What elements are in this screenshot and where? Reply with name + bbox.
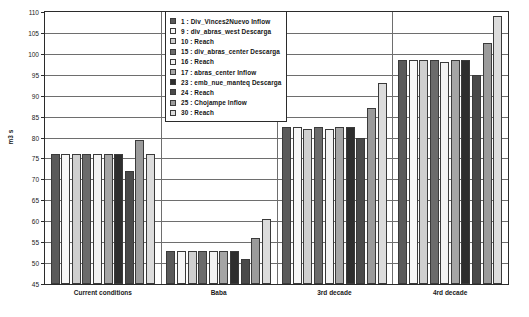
legend-label: 10 : Reach: [181, 38, 214, 45]
bar: [188, 251, 197, 284]
y-tick-label: 60: [32, 218, 39, 225]
bar: [356, 138, 365, 284]
bar: [409, 60, 418, 284]
legend-item[interactable]: 9 : div_abras_west Descarga: [170, 26, 281, 36]
bar: [367, 108, 376, 284]
bar-group: [392, 12, 508, 284]
bar: [241, 259, 250, 284]
bar: [293, 127, 302, 284]
bar: [314, 127, 323, 284]
legend-swatch-icon: [170, 89, 176, 95]
bar: [72, 154, 81, 284]
y-tick-label: 45: [32, 281, 39, 288]
legend-swatch-icon: [170, 79, 176, 85]
bar: [166, 251, 175, 284]
y-tick-label: 95: [32, 71, 39, 78]
legend-item[interactable]: 15 : div_abras_center Descarga: [170, 47, 281, 57]
legend-label: 9 : div_abras_west Descarga: [181, 28, 271, 35]
y-tick-label: 75: [32, 155, 39, 162]
y-tick: [41, 138, 45, 139]
bar: [125, 171, 134, 284]
bar: [51, 154, 60, 284]
y-tick: [41, 242, 45, 243]
x-axis-label: 3rd decade: [317, 289, 351, 296]
bar: [135, 140, 144, 284]
x-axis-label: Baba: [211, 289, 227, 296]
y-tick: [41, 54, 45, 55]
bar: [114, 154, 123, 284]
bar: [378, 83, 387, 284]
legend-item[interactable]: 10 : Reach: [170, 36, 281, 46]
bar: [104, 154, 113, 284]
y-tick-label: 105: [28, 29, 39, 36]
legend-item[interactable]: 25 : Chojampe Inflow: [170, 98, 281, 108]
bar: [230, 251, 239, 284]
y-tick: [41, 221, 45, 222]
bar-group: [277, 12, 393, 284]
bar: [262, 219, 271, 284]
bar: [483, 43, 492, 284]
bar-group: [45, 12, 161, 284]
y-tick-label: 80: [32, 134, 39, 141]
y-tick-label: 90: [32, 92, 39, 99]
legend-item[interactable]: 1 : Div_Vinces2Nuevo Inflow: [170, 16, 281, 26]
legend-item[interactable]: 23 : emb_nue_manteq Descarga: [170, 77, 281, 87]
y-tick: [41, 12, 45, 13]
bar: [219, 251, 228, 284]
legend-swatch-icon: [170, 110, 176, 116]
y-tick-label: 55: [32, 239, 39, 246]
bar: [177, 251, 186, 284]
bar: [430, 60, 439, 284]
bar: [325, 129, 334, 284]
x-axis-label: 4rd decade: [433, 289, 467, 296]
bar: [472, 75, 481, 284]
y-tick-label: 50: [32, 260, 39, 267]
y-tick: [41, 200, 45, 201]
bar: [335, 127, 344, 284]
y-tick-label: 100: [28, 50, 39, 57]
legend-label: 25 : Chojampe Inflow: [181, 99, 247, 106]
legend-swatch-icon: [170, 100, 176, 106]
bar: [346, 127, 355, 284]
legend: 1 : Div_Vinces2Nuevo Inflow9 : div_abras…: [165, 11, 287, 122]
legend-item[interactable]: 17 : abras_center Inflow: [170, 67, 281, 77]
legend-item[interactable]: 24 : Reach: [170, 87, 281, 97]
y-tick-label: 65: [32, 197, 39, 204]
legend-label: 30 : Reach: [181, 109, 214, 116]
legend-item[interactable]: 16 : Reach: [170, 57, 281, 67]
x-axis-label: Current conditions: [74, 289, 132, 296]
bar: [398, 60, 407, 284]
y-tick-label: 85: [32, 113, 39, 120]
legend-swatch-icon: [170, 49, 176, 55]
legend-label: 15 : div_abras_center Descarga: [181, 48, 280, 55]
bar: [461, 60, 470, 284]
bar-chart: m3 s 4550556065707580859095100105110 Cur…: [0, 0, 529, 317]
y-tick: [41, 117, 45, 118]
bar: [209, 251, 218, 284]
legend-swatch-icon: [170, 59, 176, 65]
y-tick: [41, 75, 45, 76]
category-separator: [161, 12, 162, 284]
y-tick: [41, 179, 45, 180]
bar: [451, 60, 460, 284]
y-tick-label: 110: [29, 9, 39, 16]
y-tick: [41, 33, 45, 34]
bar: [419, 60, 428, 284]
y-tick: [41, 158, 45, 159]
bar: [61, 154, 70, 284]
legend-item[interactable]: 30 : Reach: [170, 108, 281, 118]
bar: [493, 16, 502, 284]
bar: [146, 154, 155, 284]
category-separator: [392, 12, 393, 284]
legend-swatch-icon: [170, 38, 176, 44]
bar: [251, 238, 260, 284]
legend-swatch-icon: [170, 28, 176, 34]
bar: [93, 154, 102, 284]
bar: [82, 154, 91, 284]
legend-swatch-icon: [170, 18, 176, 24]
y-axis-title: m3 s: [7, 130, 14, 145]
legend-label: 17 : abras_center Inflow: [181, 69, 256, 76]
y-tick-label: 70: [32, 176, 39, 183]
y-tick: [41, 96, 45, 97]
legend-label: 16 : Reach: [181, 58, 214, 65]
